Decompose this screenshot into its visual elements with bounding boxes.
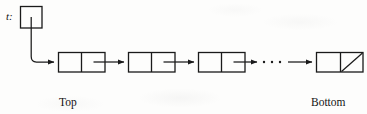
ellipsis-dot-1 — [263, 61, 265, 63]
bottom-element-caption-line1: Bottom — [311, 97, 347, 109]
top-element-caption: Top element — [59, 74, 95, 114]
pointer-variable-label: t: — [6, 11, 13, 22]
ellipsis-dot-3 — [279, 61, 281, 63]
top-element-caption-line1: Top — [59, 97, 95, 109]
list-node-3 — [199, 53, 258, 73]
bottom-element-caption: Bottom element — [311, 74, 347, 114]
node-4-outer-box — [317, 53, 364, 73]
linked-list-diagram: t: Top element Bottom element — [0, 0, 367, 114]
list-node-1 — [59, 53, 125, 73]
ellipsis-dot-2 — [271, 61, 273, 63]
list-node-2 — [129, 53, 195, 73]
ellipsis-gap — [263, 61, 312, 63]
list-node-4 — [317, 53, 364, 73]
node-4-null-pointer-slash-icon — [342, 53, 363, 72]
